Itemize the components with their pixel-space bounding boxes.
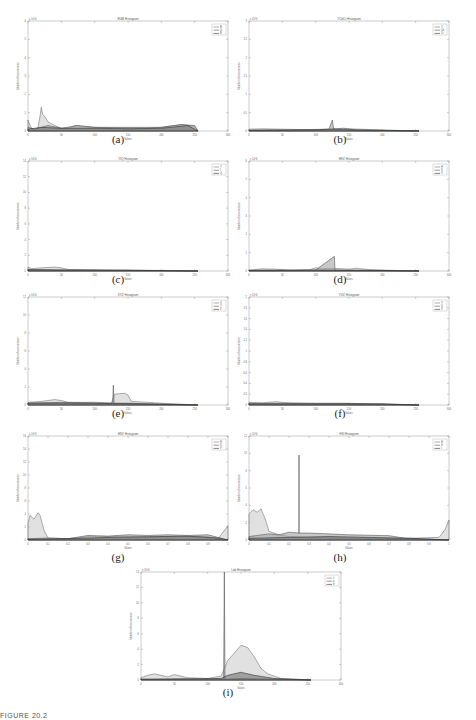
y-axis-label: Number of occurrences (237, 474, 241, 502)
x-tick-label: 200 (159, 407, 164, 411)
y-tick-label: 3 (246, 19, 248, 23)
x-tick-label: 0 (140, 682, 142, 686)
plot-area (28, 21, 228, 131)
axis-exponent: x 10^5 (250, 157, 258, 161)
y-tick-label: 0 (25, 538, 27, 542)
y-tick-label: 4 (25, 238, 27, 242)
x-tick-label: 300 (226, 407, 231, 411)
y-tick-label: 6 (25, 349, 27, 353)
y-tick-label: 3 (246, 214, 248, 218)
x-tick-label: 0 (27, 273, 29, 277)
y-tick-label: 0 (138, 678, 140, 682)
x-tick-label: 0.5 (126, 542, 130, 546)
y-tick-label: 0 (246, 129, 248, 133)
axis-exponent: x 10^4 (29, 293, 37, 297)
x-tick-label: 250 (306, 682, 311, 686)
y-tick-label: 1 (246, 251, 248, 255)
x-tick-label: 50 (281, 273, 284, 277)
axis-exponent: x 10^4 (142, 568, 150, 572)
x-tick-label: 0.2 (66, 542, 70, 546)
y-axis-label: Number of occurrences (16, 337, 20, 365)
chart-panel-e: 050100150200250300024681012XYZ Histogram… (10, 291, 234, 421)
x-tick-label: 250 (414, 407, 419, 411)
y-tick-label: 2 (25, 385, 27, 389)
x-tick-label: 0.1 (46, 542, 50, 546)
x-tick-label: 0.6 (367, 542, 371, 546)
x-tick-label: 300 (339, 682, 344, 686)
x-tick-label: 0.3 (86, 542, 90, 546)
plot-area (28, 436, 228, 540)
y-tick-label: 1 (25, 111, 27, 115)
x-tick-label: 0.9 (206, 542, 210, 546)
y-tick-label: 0.8 (243, 360, 247, 364)
axis-exponent: x 10^5 (250, 17, 258, 21)
y-tick-label: 1 (246, 92, 248, 96)
y-tick-label: 2.5 (243, 37, 247, 41)
y-tick-label: 10 (23, 473, 26, 477)
y-tick-label: 0 (25, 129, 27, 133)
x-tick-label: 0.7 (166, 542, 170, 546)
y-tick-label: 0 (25, 403, 27, 407)
x-tick-label: 50 (173, 682, 176, 686)
chart-panel-c: 05010015020025030002468101214YIQ Histogr… (10, 155, 234, 287)
y-tick-label: 6 (246, 159, 248, 163)
y-tick-label: 2 (25, 92, 27, 96)
chart-title: YUV Histogram (339, 293, 360, 297)
y-axis-label: Number of occurrences (16, 62, 20, 90)
series-V (249, 404, 419, 405)
x-tick-label: 300 (447, 273, 452, 277)
y-axis-label: Number of occurrences (237, 337, 241, 365)
legend-label: Q (220, 171, 222, 175)
y-tick-label: 12 (244, 434, 247, 438)
y-axis-label: Number of occurrences (16, 202, 20, 230)
y-tick-label: 2 (246, 232, 248, 236)
y-tick-label: 10 (23, 313, 26, 317)
y-tick-label: 4 (138, 647, 140, 651)
y-tick-label: 1.2 (243, 338, 247, 342)
subfigure-caption-f: (f) (310, 407, 370, 419)
y-tick-label: 6 (138, 632, 140, 636)
y-axis-label: Number of occurrences (237, 202, 241, 230)
y-tick-label: 0 (246, 269, 248, 273)
y-tick-label: 0 (246, 538, 248, 542)
x-tick-label: 50 (281, 407, 284, 411)
y-tick-label: 8 (25, 486, 27, 490)
x-tick-label: 250 (193, 273, 198, 277)
chart-panel-i: 05010015020025030002468101214Lab Histogr… (123, 566, 347, 696)
x-tick-label: 0 (248, 133, 250, 137)
axis-exponent: x 10^4 (250, 293, 258, 297)
y-tick-label: 8 (25, 206, 27, 210)
x-tick-label: 0.8 (186, 542, 190, 546)
y-tick-label: 0 (246, 403, 248, 407)
y-tick-label: 12 (136, 585, 139, 589)
y-tick-label: 10 (244, 451, 247, 455)
y-tick-label: 14 (136, 570, 139, 574)
x-tick-label: 250 (193, 133, 198, 137)
y-tick-label: 0.6 (243, 371, 247, 375)
y-tick-label: 10 (23, 190, 26, 194)
x-tick-label: 0 (248, 407, 250, 411)
x-tick-label: 0.4 (106, 542, 110, 546)
figure-footer: FIGURE 20.2 (0, 712, 48, 719)
subfigure-caption-g: (g) (88, 551, 148, 563)
x-tick-label: 1 (448, 542, 450, 546)
x-tick-label: 0.8 (407, 542, 411, 546)
chart-panel-d: 0501001502002503000123456HSV Histogramx … (231, 155, 455, 287)
y-tick-label: 4 (25, 367, 27, 371)
axis-exponent: x 10^4 (250, 432, 258, 436)
plot-area (28, 297, 228, 405)
y-tick-label: 10 (136, 601, 139, 605)
y-tick-label: 14 (23, 447, 26, 451)
x-tick-label: 0.1 (267, 542, 271, 546)
y-tick-label: 2 (246, 521, 248, 525)
chart-panel-g: 00.10.20.30.40.50.60.70.80.9102468101214… (10, 430, 234, 556)
chart-panel-h: 00.10.20.30.40.50.60.70.80.91024681012HS… (231, 430, 455, 556)
subfigure-caption-h: (h) (310, 551, 370, 563)
x-tick-label: 50 (60, 133, 63, 137)
y-tick-label: 6 (246, 486, 248, 490)
chart-title: RGB Histogram (117, 17, 139, 21)
y-tick-label: 8 (246, 469, 248, 473)
y-tick-label: 5 (25, 37, 27, 41)
y-tick-label: 5 (246, 177, 248, 181)
axis-exponent: x 10^4 (29, 157, 37, 161)
